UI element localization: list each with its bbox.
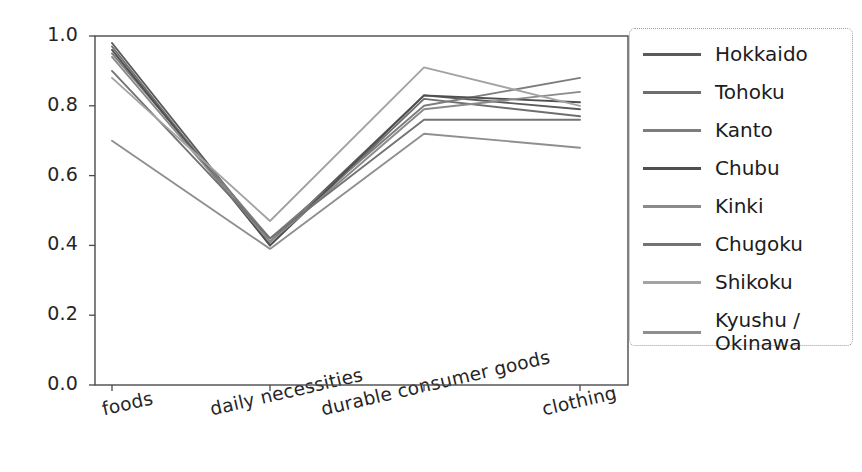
legend-swatch-icon [643, 53, 701, 56]
legend-swatch-icon [643, 331, 701, 334]
legend-label: Chugoku [715, 233, 803, 256]
legend-swatch-icon [643, 281, 701, 284]
legend-label: Hokkaido [715, 43, 808, 66]
legend-swatch-icon [643, 129, 701, 132]
line-chart-figure: 0.00.20.40.60.81.0 foodsdaily necessitie… [0, 0, 862, 472]
legend-swatch-icon [643, 91, 701, 94]
legend-item[interactable]: Kinki [630, 187, 852, 225]
legend-item[interactable]: Hokkaido [630, 35, 852, 73]
legend-item[interactable]: Chubu [630, 149, 852, 187]
chart-legend: HokkaidoTohokuKantoChubuKinkiChugokuShik… [629, 28, 853, 346]
legend-label: Chubu [715, 157, 780, 180]
legend-swatch-icon [643, 205, 701, 208]
plot-frame [95, 36, 628, 385]
legend-item[interactable]: Kanto [630, 111, 852, 149]
legend-label: Shikoku [715, 271, 793, 294]
legend-label: Kinki [715, 195, 764, 218]
legend-swatch-icon [643, 243, 701, 246]
legend-label: Tohoku [715, 81, 785, 104]
legend-item[interactable]: Kyushu / Okinawa [630, 301, 852, 363]
series-line-chubu [112, 50, 580, 245]
legend-item[interactable]: Shikoku [630, 263, 852, 301]
legend-item[interactable]: Chugoku [630, 225, 852, 263]
series-line-kinki [112, 57, 580, 242]
series-line-chugoku [112, 71, 580, 239]
legend-label: Kanto [715, 119, 773, 142]
legend-item[interactable]: Tohoku [630, 73, 852, 111]
series-line-kyushu-okinawa [112, 134, 580, 249]
legend-swatch-icon [643, 167, 701, 170]
legend-label: Kyushu / Okinawa [715, 309, 801, 355]
